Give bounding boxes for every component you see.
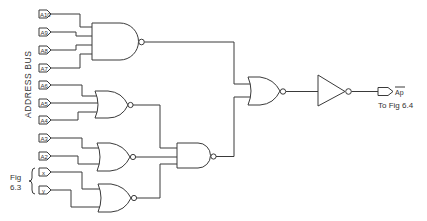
input-a8: A8 bbox=[39, 46, 51, 54]
fig-6-3-reference: Fig 6.3 bbox=[10, 168, 35, 194]
nand-gate-3-input bbox=[177, 143, 216, 168]
nor-gate-output bbox=[248, 77, 286, 105]
svg-text:A4: A4 bbox=[41, 118, 49, 124]
input-a4: A4 bbox=[39, 116, 51, 124]
svg-text:A7: A7 bbox=[41, 66, 49, 72]
nand-gate-4-input bbox=[92, 23, 144, 60]
nor-gate-c bbox=[98, 184, 137, 212]
to-fig-6-4-label: To Fig 6.4 bbox=[378, 101, 414, 110]
inverter-gate bbox=[318, 75, 351, 106]
svg-text:A10: A10 bbox=[40, 12, 51, 18]
svg-text:y: y bbox=[42, 188, 45, 194]
input-a5: A5 bbox=[39, 99, 51, 107]
input-a6: A6 bbox=[39, 81, 51, 89]
svg-text:Fig: Fig bbox=[10, 173, 21, 182]
address-bus-label: ADDRESS BUS bbox=[23, 50, 33, 118]
input-a10: A10 bbox=[39, 10, 51, 18]
nor-gate-b bbox=[97, 143, 136, 171]
input-a3: A3 bbox=[39, 134, 51, 142]
svg-text:Ap: Ap bbox=[395, 89, 404, 97]
input-y: y bbox=[39, 186, 51, 194]
input-a9: A9 bbox=[39, 28, 51, 36]
svg-text:A2: A2 bbox=[41, 154, 49, 160]
svg-text:A6: A6 bbox=[41, 83, 49, 89]
input-x: x bbox=[39, 168, 51, 176]
logic-diagram: ADDRESS BUS A10 A9 A8 A7 A6 A5 A4 A3 A2 … bbox=[0, 0, 427, 221]
nor-gate-a bbox=[95, 91, 133, 118]
svg-text:A3: A3 bbox=[41, 136, 49, 142]
svg-text:x: x bbox=[42, 170, 45, 176]
svg-text:6.3: 6.3 bbox=[10, 183, 22, 192]
svg-text:A8: A8 bbox=[41, 48, 49, 54]
output-ap: Ap bbox=[378, 87, 405, 97]
input-a7: A7 bbox=[39, 64, 51, 72]
input-a2: A2 bbox=[39, 152, 51, 160]
svg-text:A9: A9 bbox=[41, 30, 49, 36]
svg-text:A5: A5 bbox=[41, 101, 49, 107]
